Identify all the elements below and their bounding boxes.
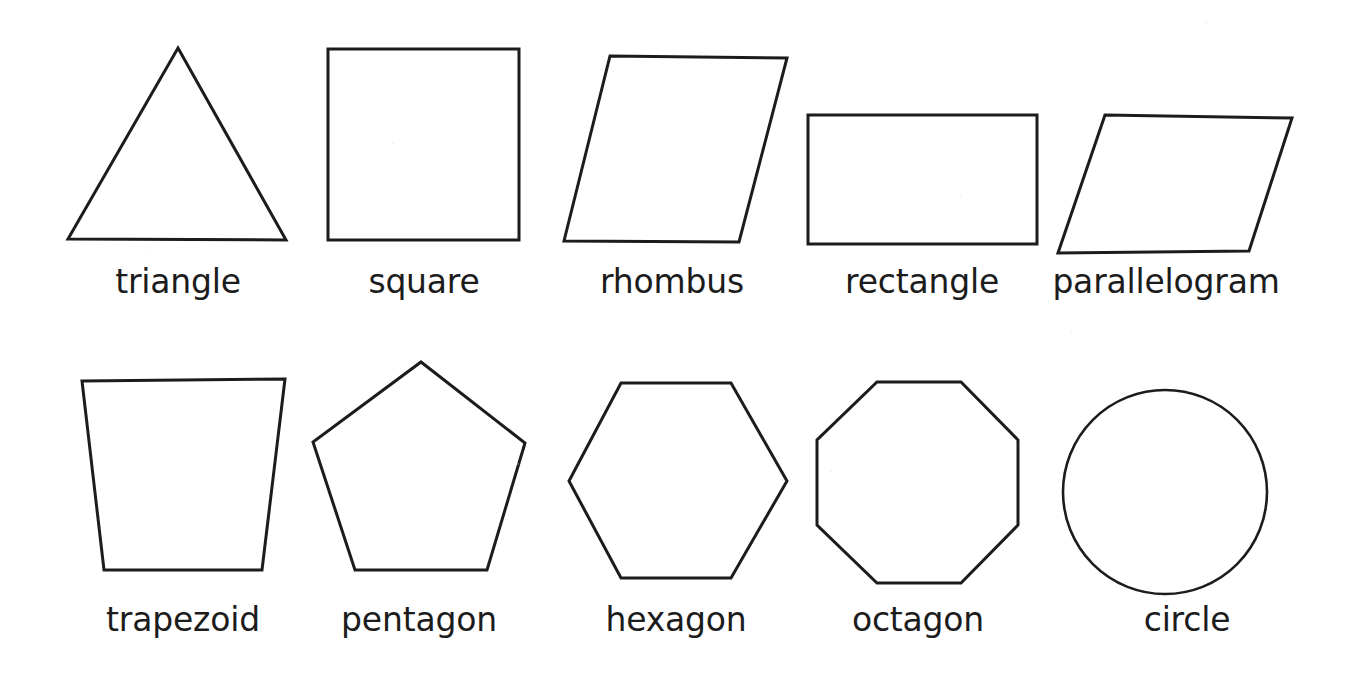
shape-label-octagon: octagon xyxy=(852,603,984,636)
shape-label-rhombus: rhombus xyxy=(600,265,744,298)
shape-rectangle xyxy=(808,115,1037,244)
shape-triangle xyxy=(68,48,286,240)
shape-octagon xyxy=(817,382,1018,583)
shape-pentagon xyxy=(313,362,525,570)
shape-rhombus xyxy=(564,56,787,242)
shape-parallelogram xyxy=(1058,115,1292,253)
shape-label-circle: circle xyxy=(1144,603,1231,636)
shape-label-parallelogram: parallelogram xyxy=(1052,265,1279,298)
shape-label-triangle: triangle xyxy=(115,265,241,298)
shapes-chart-sheet: trianglesquarerhombusrectangleparallelog… xyxy=(0,0,1356,687)
shape-square xyxy=(328,49,519,240)
shape-label-hexagon: hexagon xyxy=(605,603,746,636)
shape-label-pentagon: pentagon xyxy=(341,603,497,636)
shape-label-trapezoid: trapezoid xyxy=(106,603,260,636)
shapes-canvas xyxy=(0,0,1356,687)
shape-label-rectangle: rectangle xyxy=(845,265,999,298)
shape-circle xyxy=(1063,390,1267,594)
shape-label-square: square xyxy=(368,265,479,298)
shape-trapezoid xyxy=(82,379,285,570)
shape-hexagon xyxy=(569,383,787,578)
